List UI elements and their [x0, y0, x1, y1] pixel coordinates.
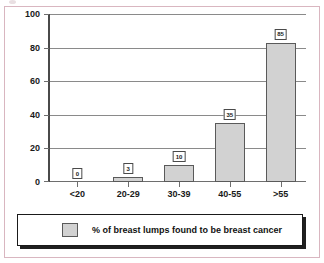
y-tick-label: 80 [30, 43, 40, 52]
y-tick-label: 100 [25, 10, 40, 19]
x-tick-label: 40-55 [218, 190, 241, 199]
y-tick-label: 60 [30, 77, 40, 86]
bar[interactable] [215, 123, 245, 182]
y-tick-label: 40 [30, 110, 40, 119]
bar-slot: 85 [255, 14, 306, 182]
x-tick-mark [179, 182, 180, 187]
bar-value-label: 85 [274, 29, 287, 40]
y-tick-label: 20 [30, 144, 40, 153]
legend-label: % of breast lumps found to be breast can… [92, 226, 282, 235]
bar[interactable] [164, 165, 194, 182]
chart-figure: 0 20 40 60 80 100 0 [0, 0, 324, 263]
x-tick-label: 20-29 [117, 190, 140, 199]
bar-value-label: 35 [223, 109, 236, 120]
x-tick-label: <20 [70, 190, 85, 199]
chart-legend: % of breast lumps found to be breast can… [17, 214, 303, 246]
bar-slot: 10 [154, 14, 205, 182]
scan-artifact [9, 0, 16, 4]
x-tick-label: >55 [273, 190, 288, 199]
bar-group: 0 3 10 35 85 [48, 14, 306, 182]
bar-value-label: 0 [73, 168, 82, 179]
x-tick-mark [128, 182, 129, 187]
plot-region: 0 20 40 60 80 100 0 [12, 14, 312, 200]
x-tick-mark [77, 182, 78, 187]
legend-swatch [62, 223, 78, 237]
x-axis-tick-labels: <20 20-29 30-39 40-55 >55 [48, 190, 306, 206]
bar-slot: 35 [204, 14, 255, 182]
bar[interactable] [266, 43, 296, 182]
bar-slot: 0 [52, 14, 103, 182]
plot-canvas: 0 3 10 35 85 [48, 14, 306, 182]
x-tick-label: 30-39 [167, 190, 190, 199]
bar-slot: 3 [103, 14, 154, 182]
x-tick-mark [230, 182, 231, 187]
y-tick-label: 0 [35, 178, 40, 187]
bar-value-label: 10 [173, 151, 186, 162]
x-tick-mark [281, 182, 282, 187]
bar-value-label: 3 [124, 163, 133, 174]
y-axis-tick-labels: 0 20 40 60 80 100 [12, 14, 44, 182]
